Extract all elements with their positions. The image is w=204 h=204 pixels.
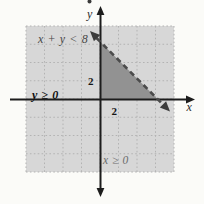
inequality-label-boundary: x + y < 8 (37, 32, 88, 46)
x-axis-label: x (186, 100, 193, 114)
y-axis-bottom-arrow-icon (97, 188, 105, 197)
textbook-figure: x + y < 8 y ≥ 0 x ≥ 0 2 2 y x (0, 0, 204, 204)
y-tick-label: 2 (88, 75, 94, 87)
y-axis-top-arrow-icon (97, 6, 105, 15)
y-axis-label: y (86, 7, 93, 21)
x-tick-label: 2 (112, 105, 118, 117)
inequality-graph: x + y < 8 y ≥ 0 x ≥ 0 2 2 y x (0, 0, 204, 204)
inequality-label-x: x ≥ 0 (102, 154, 129, 166)
inequality-label-y: y ≥ 0 (30, 88, 59, 102)
page-artifact-dot (88, 0, 92, 4)
